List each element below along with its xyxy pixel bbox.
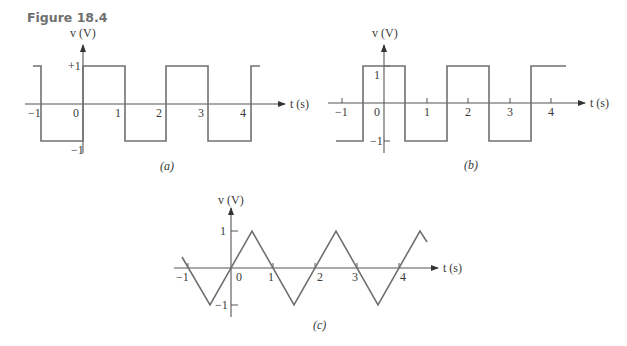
x-tick-b: 3 bbox=[507, 105, 513, 119]
x-tick-c: 4 bbox=[400, 270, 406, 284]
x-tick-b: 4 bbox=[548, 105, 554, 119]
x-tick-c: −1 bbox=[176, 270, 189, 284]
x-tick-a: 0 bbox=[73, 106, 79, 120]
panel-a: v (V) t (s) +1 −1 −1 0 1 2 3 4 (a) bbox=[25, 26, 309, 173]
x-tick-b: 2 bbox=[465, 105, 471, 119]
x-tick-c: 1 bbox=[268, 270, 274, 284]
x-tick-b: 0 bbox=[374, 105, 380, 119]
panel-b: v (V) t (s) 1 −1 −1 0 1 2 3 4 (b) bbox=[328, 26, 609, 172]
x-axis-label-b: t (s) bbox=[590, 96, 609, 110]
panel-c: v (V) t (s) 1 −1 −1 0 1 2 3 4 (c) bbox=[174, 193, 462, 332]
y-axis-label-b: v (V) bbox=[372, 26, 398, 40]
caption-c: (c) bbox=[313, 318, 326, 332]
caption-b: (b) bbox=[464, 158, 478, 172]
x-tick-c: 2 bbox=[317, 270, 323, 284]
y-tick-neg1-a: −1 bbox=[71, 143, 84, 157]
y-axis-label-a: v (V) bbox=[70, 26, 96, 40]
y-axis-label-c: v (V) bbox=[218, 193, 244, 207]
y-tick-pos1-b: 1 bbox=[374, 68, 380, 82]
x-tick-a: 4 bbox=[240, 106, 246, 120]
x-tick-b: −1 bbox=[335, 105, 348, 119]
figure-canvas: v (V) t (s) +1 −1 −1 0 1 2 3 4 (a) v (V)… bbox=[0, 0, 627, 346]
y-tick-pos1-a: +1 bbox=[68, 59, 81, 73]
x-axis-label-a: t (s) bbox=[290, 97, 309, 111]
y-tick-neg1-c: −1 bbox=[215, 298, 228, 312]
y-tick-pos1-c: 1 bbox=[220, 224, 226, 238]
y-tick-neg1-b: −1 bbox=[370, 134, 383, 148]
x-tick-a: −1 bbox=[28, 106, 41, 120]
x-tick-b: 1 bbox=[424, 105, 430, 119]
x-tick-c: 0 bbox=[236, 270, 242, 284]
x-tick-a: 1 bbox=[115, 106, 121, 120]
x-axis-label-c: t (s) bbox=[443, 261, 462, 275]
x-tick-a: 3 bbox=[198, 106, 204, 120]
caption-a: (a) bbox=[160, 159, 174, 173]
x-tick-a: 2 bbox=[156, 106, 162, 120]
x-tick-c: 3 bbox=[352, 270, 358, 284]
